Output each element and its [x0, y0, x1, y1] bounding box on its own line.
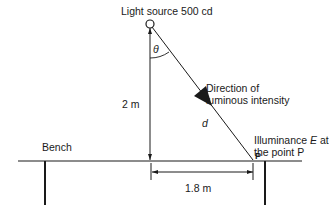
distance-d-label: d — [202, 117, 208, 129]
theta-label: θ — [153, 43, 159, 55]
illuminance-label-post: at — [317, 134, 329, 146]
light-source-label: Light source 500 cd — [121, 5, 213, 17]
arrow-head-down-icon — [148, 154, 152, 160]
illuminance-symbol: E — [310, 134, 317, 146]
arrow-head-left-icon — [152, 170, 158, 174]
bench-label: Bench — [42, 141, 72, 153]
horizontal-distance-label: 1.8 m — [185, 182, 211, 194]
arrow-head-up-icon — [148, 28, 152, 34]
illuminance-label-line2: the point P — [254, 146, 304, 158]
arrow-head-right-icon — [247, 170, 253, 174]
direction-label-line1: Direction of — [206, 82, 259, 94]
illuminance-label-pre: Illuminance — [254, 134, 310, 146]
point-p-label: P — [255, 150, 261, 162]
vertical-distance-label: 2 m — [122, 98, 140, 110]
illuminance-label-line1: Illuminance E at — [254, 134, 329, 146]
direction-label-line2: luminous intensity — [206, 94, 289, 106]
light-source-icon — [146, 20, 154, 28]
